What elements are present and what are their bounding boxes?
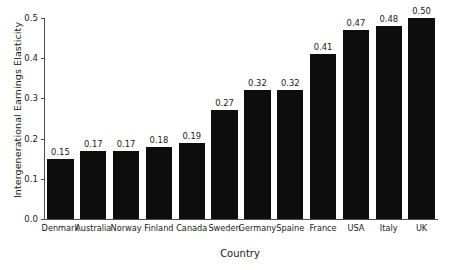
bar[interactable] — [47, 159, 73, 219]
bar-value-label: 0.19 — [172, 131, 212, 141]
bar[interactable] — [376, 26, 402, 219]
y-axis-tick-label: 0.1 — [12, 174, 38, 184]
y-axis-tick-label: 0.2 — [12, 134, 38, 144]
bar-group: 0.50UK — [408, 18, 434, 219]
bar[interactable] — [80, 151, 106, 219]
bar-value-label: 0.27 — [205, 98, 245, 108]
x-axis-title: Country — [42, 248, 438, 259]
chart-canvas: Intergenerational Earnings Elasticity 0.… — [0, 0, 449, 270]
bar-group: 0.15Denmark — [47, 18, 73, 219]
bar[interactable] — [179, 143, 205, 219]
bar-group: 0.27Sweden — [211, 18, 237, 219]
bar-group: 0.32Spaine — [277, 18, 303, 219]
bar-value-label: 0.50 — [402, 6, 442, 16]
bar[interactable] — [343, 30, 369, 219]
bar-group: 0.17Norway — [113, 18, 139, 219]
bar-group: 0.41France — [310, 18, 336, 219]
bar-group: 0.32Germany — [244, 18, 270, 219]
bar[interactable] — [408, 18, 434, 219]
bar-group: 0.48Italy — [376, 18, 402, 219]
bar-value-label: 0.32 — [270, 78, 310, 88]
y-axis-spine — [44, 18, 45, 220]
y-axis-tick-labels: 0.00.10.20.30.40.5 — [8, 18, 38, 220]
bar[interactable] — [244, 90, 270, 219]
x-axis-spine — [44, 219, 438, 220]
bar[interactable] — [310, 54, 336, 219]
plot-area: 0.15Denmark0.17Australia0.17Norway0.18Fi… — [44, 18, 438, 220]
bar-group: 0.17Australia — [80, 18, 106, 219]
x-axis-category-label: UK — [395, 223, 449, 233]
bar-value-label: 0.41 — [303, 42, 343, 52]
bar-group: 0.19Canada — [179, 18, 205, 219]
y-axis-tick-label: 0.4 — [12, 53, 38, 63]
bar-group: 0.18Finland — [146, 18, 172, 219]
y-axis-tick-label: 0.3 — [12, 93, 38, 103]
bar-group: 0.47USA — [343, 18, 369, 219]
bar[interactable] — [277, 90, 303, 219]
bar[interactable] — [211, 110, 237, 219]
bar[interactable] — [146, 147, 172, 219]
y-axis-tick-label: 0.5 — [12, 13, 38, 23]
bar[interactable] — [113, 151, 139, 219]
